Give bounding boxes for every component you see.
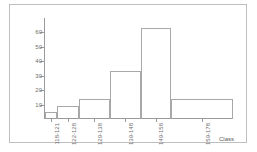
x-axis-tick <box>125 118 126 122</box>
y-axis-tick-label: 10 <box>35 102 42 108</box>
bar <box>110 71 141 119</box>
x-axis-tick-label: 149-158 <box>158 123 164 145</box>
bar <box>141 28 172 119</box>
x-axis-tick-label: 159-178 <box>205 123 211 145</box>
chart-frame: 102030405060 118-121122-128129-138139-14… <box>9 4 247 143</box>
x-axis-tick <box>94 118 95 122</box>
x-axis-tick-label: 122-128 <box>71 123 77 145</box>
x-axis-tick-label: 139-148 <box>128 123 134 145</box>
bar-series <box>45 18 233 119</box>
x-axis-title: Class <box>219 136 234 142</box>
x-axis-tick-label: 129-138 <box>97 123 103 145</box>
y-axis-tick-label: 60 <box>35 29 42 35</box>
y-axis-tick-label: 40 <box>35 58 42 64</box>
y-axis-tick-label: 20 <box>35 87 42 93</box>
x-axis-tick-label: 118-121 <box>54 123 60 145</box>
x-axis-tick <box>156 118 157 122</box>
bar <box>171 99 233 119</box>
x-axis-tick <box>68 118 69 122</box>
y-axis-tick-label: 30 <box>35 73 42 79</box>
y-axis-tick-label: 50 <box>35 44 42 50</box>
x-axis-tick <box>51 118 52 122</box>
bar <box>79 99 110 119</box>
x-axis-tick <box>202 118 203 122</box>
